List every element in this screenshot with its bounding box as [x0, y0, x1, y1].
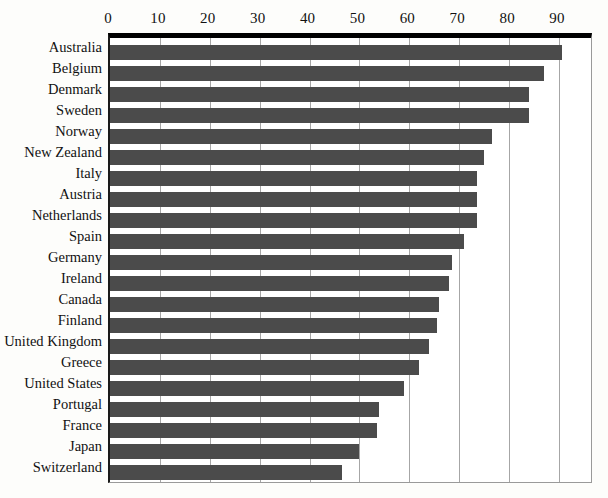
category-label-finland: Finland [0, 310, 102, 331]
horizontal-bar-chart: 0102030405060708090 AustraliaBelgiumDenm… [0, 0, 608, 498]
bar-rows [110, 38, 591, 482]
x-axis-tick-70: 70 [450, 10, 465, 27]
category-label-united-states: United States [0, 373, 102, 394]
x-axis-tick-80: 80 [499, 10, 514, 27]
plot-area [108, 33, 592, 483]
bar-australia [110, 45, 562, 60]
x-axis-tick-90: 90 [549, 10, 564, 27]
bar-belgium [110, 66, 544, 81]
bar-row [110, 315, 594, 336]
category-axis-labels: AustraliaBelgiumDenmarkSwedenNorwayNew Z… [0, 33, 102, 483]
category-label-netherlands: Netherlands [0, 205, 102, 226]
x-axis-tick-0: 0 [104, 10, 112, 27]
bar-spain [110, 234, 464, 249]
bar-united-states [110, 381, 404, 396]
category-label-new-zealand: New Zealand [0, 142, 102, 163]
x-axis-tick-60: 60 [400, 10, 415, 27]
bar-germany [110, 255, 452, 270]
bar-row [110, 84, 594, 105]
bar-row [110, 399, 594, 420]
bar-row [110, 294, 594, 315]
category-label-denmark: Denmark [0, 79, 102, 100]
bar-row [110, 63, 594, 84]
category-label-australia: Australia [0, 37, 102, 58]
category-label-france: France [0, 415, 102, 436]
bar-row [110, 231, 594, 252]
bar-finland [110, 318, 437, 333]
category-label-austria: Austria [0, 184, 102, 205]
x-axis-tick-40: 40 [300, 10, 315, 27]
bar-row [110, 189, 594, 210]
bar-row [110, 210, 594, 231]
category-label-japan: Japan [0, 436, 102, 457]
bar-united-kingdom [110, 339, 429, 354]
bar-row [110, 420, 594, 441]
bar-sweden [110, 108, 529, 123]
bar-row [110, 357, 594, 378]
category-label-germany: Germany [0, 247, 102, 268]
bar-row [110, 42, 594, 63]
x-axis-tick-50: 50 [350, 10, 365, 27]
category-label-ireland: Ireland [0, 268, 102, 289]
x-axis-tick-labels: 0102030405060708090 [0, 10, 608, 32]
category-label-sweden: Sweden [0, 100, 102, 121]
category-label-united-kingdom: United Kingdom [0, 331, 102, 352]
category-label-italy: Italy [0, 163, 102, 184]
bar-row [110, 378, 594, 399]
bar-canada [110, 297, 439, 312]
bar-switzerland [110, 465, 342, 480]
bar-new-zealand [110, 150, 484, 165]
bar-row [110, 126, 594, 147]
category-label-belgium: Belgium [0, 58, 102, 79]
bar-netherlands [110, 213, 477, 228]
category-label-greece: Greece [0, 352, 102, 373]
bar-denmark [110, 87, 529, 102]
category-label-switzerland: Switzerland [0, 457, 102, 478]
category-label-spain: Spain [0, 226, 102, 247]
x-axis-tick-30: 30 [250, 10, 265, 27]
bar-greece [110, 360, 419, 375]
bar-portugal [110, 402, 379, 417]
bar-ireland [110, 276, 449, 291]
bar-row [110, 441, 594, 462]
category-label-norway: Norway [0, 121, 102, 142]
bar-row [110, 147, 594, 168]
bar-norway [110, 129, 492, 144]
category-label-canada: Canada [0, 289, 102, 310]
bar-row [110, 168, 594, 189]
bar-austria [110, 192, 477, 207]
bar-row [110, 252, 594, 273]
bar-row [110, 336, 594, 357]
x-axis-tick-10: 10 [150, 10, 165, 27]
bar-italy [110, 171, 477, 186]
x-axis-tick-20: 20 [200, 10, 215, 27]
bar-row [110, 273, 594, 294]
bar-france [110, 423, 377, 438]
bar-row [110, 462, 594, 483]
category-label-portugal: Portugal [0, 394, 102, 415]
bar-row [110, 105, 594, 126]
bar-japan [110, 444, 359, 459]
